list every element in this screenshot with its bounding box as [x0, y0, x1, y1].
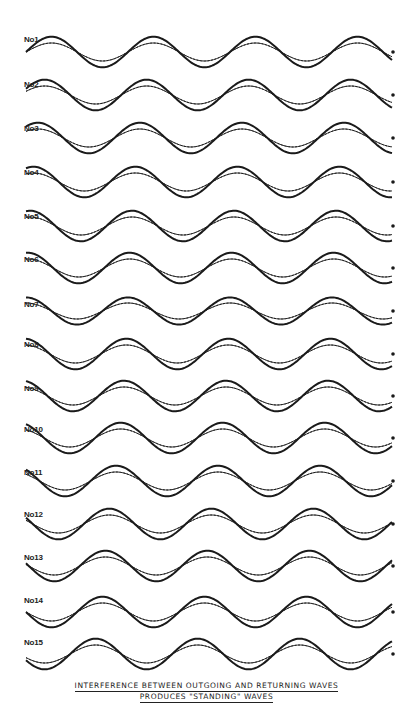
wave-row-7 — [26, 297, 395, 324]
row-label: No4 — [24, 168, 39, 177]
resultant-wave — [26, 297, 392, 324]
wave-row-4 — [26, 167, 395, 198]
end-point-icon — [391, 266, 395, 270]
end-point-icon — [391, 394, 395, 398]
end-point-icon — [391, 224, 395, 228]
end-point-icon — [391, 180, 395, 184]
end-point-icon — [391, 309, 395, 313]
outgoing-wave — [26, 429, 392, 447]
wave-row-13 — [26, 551, 395, 582]
resultant-wave — [26, 381, 392, 412]
resultant-wave — [26, 597, 392, 628]
end-point-icon — [391, 652, 395, 656]
outgoing-wave — [26, 303, 392, 319]
returning-wave — [26, 603, 392, 621]
returning-wave — [26, 43, 392, 61]
returning-wave — [26, 387, 392, 405]
end-point-icon — [391, 136, 395, 140]
resultant-wave — [26, 123, 392, 154]
caption-text-1: INTERFERENCE BETWEEN OUTGOING AND RETURN… — [75, 681, 339, 692]
wave-row-11 — [26, 466, 395, 497]
resultant-wave — [26, 37, 392, 68]
row-label: No6 — [24, 255, 39, 264]
caption-text-2: PRODUCES "STANDING" WAVES — [140, 692, 274, 703]
wave-row-10 — [26, 423, 395, 454]
resultant-wave — [26, 423, 392, 454]
resultant-wave — [26, 339, 392, 370]
returning-wave — [26, 173, 392, 191]
outgoing-wave — [26, 603, 392, 621]
outgoing-wave — [26, 43, 392, 61]
standing-waves-diagram — [0, 0, 413, 723]
row-label: No9 — [24, 384, 39, 393]
resultant-wave — [26, 551, 392, 582]
row-label: No15 — [24, 638, 43, 647]
returning-wave — [26, 259, 392, 277]
row-label: No1 — [24, 35, 39, 44]
end-point-icon — [391, 610, 395, 614]
wave-row-9 — [26, 381, 395, 412]
wave-row-15 — [26, 639, 395, 670]
row-label: No3 — [24, 124, 39, 133]
returning-wave — [26, 515, 392, 533]
outgoing-wave — [26, 645, 392, 663]
end-point-icon — [391, 50, 395, 54]
wave-row-12 — [26, 509, 395, 540]
wave-row-5 — [26, 211, 395, 242]
end-point-icon — [391, 436, 395, 440]
outgoing-wave — [26, 515, 392, 533]
wave-row-2 — [26, 80, 395, 111]
row-label: No13 — [24, 553, 43, 562]
outgoing-wave — [26, 259, 392, 277]
resultant-wave — [26, 167, 392, 198]
end-point-icon — [391, 479, 395, 483]
end-point-icon — [391, 522, 395, 526]
resultant-wave — [26, 509, 392, 540]
wave-row-14 — [26, 597, 395, 628]
returning-wave — [26, 303, 392, 319]
end-point-icon — [391, 352, 395, 356]
resultant-wave — [26, 80, 392, 111]
resultant-wave — [26, 466, 392, 497]
row-label: No2 — [24, 80, 39, 89]
resultant-wave — [26, 253, 392, 284]
row-label: No12 — [24, 510, 43, 519]
wave-row-6 — [26, 253, 395, 284]
outgoing-wave — [26, 387, 392, 405]
row-label: No11 — [24, 468, 42, 477]
end-point-icon — [391, 93, 395, 97]
resultant-wave — [26, 211, 392, 242]
wave-row-3 — [26, 123, 395, 154]
returning-wave — [26, 472, 392, 490]
outgoing-wave — [26, 173, 392, 191]
row-label: No8 — [24, 340, 39, 349]
row-label: No10 — [24, 425, 43, 434]
row-label: No14 — [24, 596, 43, 605]
caption-line-1: INTERFERENCE BETWEEN OUTGOING AND RETURN… — [0, 681, 413, 690]
resultant-wave — [26, 639, 392, 670]
row-label: No5 — [24, 212, 39, 221]
outgoing-wave — [26, 86, 392, 104]
row-label: No7 — [24, 300, 39, 309]
caption-line-2: PRODUCES "STANDING" WAVES — [0, 692, 413, 701]
end-point-icon — [391, 564, 395, 568]
outgoing-wave — [26, 472, 392, 490]
wave-row-1 — [26, 37, 395, 68]
wave-row-8 — [26, 339, 395, 370]
